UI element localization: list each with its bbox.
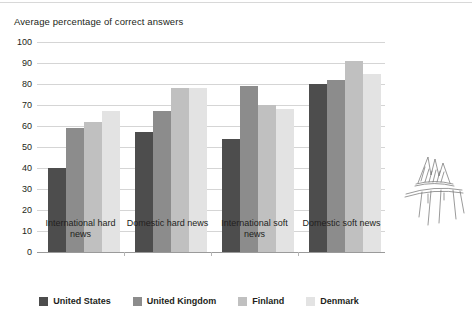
legend-item[interactable]: Finland	[238, 296, 284, 306]
top-divider	[0, 2, 472, 3]
legend-swatch-icon	[238, 297, 247, 306]
legend-swatch-icon	[39, 297, 48, 306]
legend-item[interactable]: United States	[39, 296, 111, 306]
y-tick-label-20: 20	[22, 205, 32, 215]
y-tick-label-90: 90	[22, 58, 32, 68]
y-tick-label-10: 10	[22, 226, 32, 236]
legend-item[interactable]: United Kingdom	[133, 296, 217, 306]
pavilion-sketch	[398, 145, 470, 230]
x-category-label: Domestic hard news	[124, 218, 211, 229]
chart-title: Average percentage of correct answers	[14, 16, 183, 27]
axis-tick-mark	[124, 252, 125, 256]
legend-label: United Kingdom	[147, 296, 217, 306]
y-tick-label-80: 80	[22, 79, 32, 89]
x-category-label: Domestic soft news	[298, 218, 385, 229]
y-tick-label-30: 30	[22, 184, 32, 194]
y-tick-label-50: 50	[22, 142, 32, 152]
x-category-label: International hard news	[37, 218, 124, 240]
axis-tick-mark	[298, 252, 299, 256]
chart-legend: United StatesUnited KingdomFinlandDenmar…	[0, 296, 398, 306]
legend-swatch-icon	[306, 297, 315, 306]
legend-swatch-icon	[133, 297, 142, 306]
y-tick-label-40: 40	[22, 163, 32, 173]
y-tick-label-100: 100	[17, 37, 32, 47]
x-category-label: International soft news	[211, 218, 298, 240]
bar	[135, 132, 153, 252]
bar	[153, 111, 171, 252]
y-tick-label-60: 60	[22, 121, 32, 131]
y-tick-label-70: 70	[22, 100, 32, 110]
legend-label: Denmark	[320, 296, 359, 306]
y-tick-label-0: 0	[27, 247, 32, 257]
legend-item[interactable]: Denmark	[306, 296, 359, 306]
axis-tick-mark	[211, 252, 212, 256]
legend-label: United States	[53, 296, 111, 306]
legend-label: Finland	[252, 296, 284, 306]
